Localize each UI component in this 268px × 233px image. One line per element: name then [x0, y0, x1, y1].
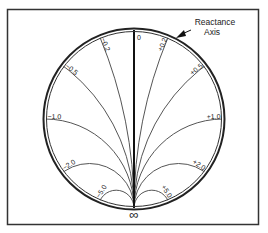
reactance-axis-callout: Reactance Axis — [176, 17, 236, 38]
reactance-label: −2.0 — [61, 158, 76, 171]
reactance-arc — [134, 0, 268, 233]
smith-chart-diagram: +0.2+0.5+1.0+2.0+5.0−0.2−0.5−1.0−2.0−5.0… — [0, 0, 268, 233]
reactance-arc — [134, 30, 268, 233]
reactance-label: +2.0 — [191, 158, 206, 171]
zero-label: 0 — [137, 34, 141, 41]
reactance-label: −5.0 — [95, 183, 108, 199]
reactance-arc — [0, 0, 134, 233]
infinity-label: ∞ — [129, 207, 138, 222]
callout-line1: Reactance — [195, 17, 236, 27]
reactance-label: +1.0 — [207, 113, 221, 120]
reactance-label: −0.5 — [64, 62, 79, 76]
reactance-label: +5.0 — [160, 183, 173, 199]
reactance-arc — [0, 30, 134, 233]
reactance-label: −1.0 — [47, 113, 61, 120]
reactance-label: +0.2 — [157, 37, 169, 53]
reactance-label: −0.2 — [100, 37, 112, 53]
reactance-label: +0.5 — [189, 62, 204, 76]
callout-line2: Axis — [204, 27, 220, 37]
arrow-icon — [176, 30, 191, 38]
